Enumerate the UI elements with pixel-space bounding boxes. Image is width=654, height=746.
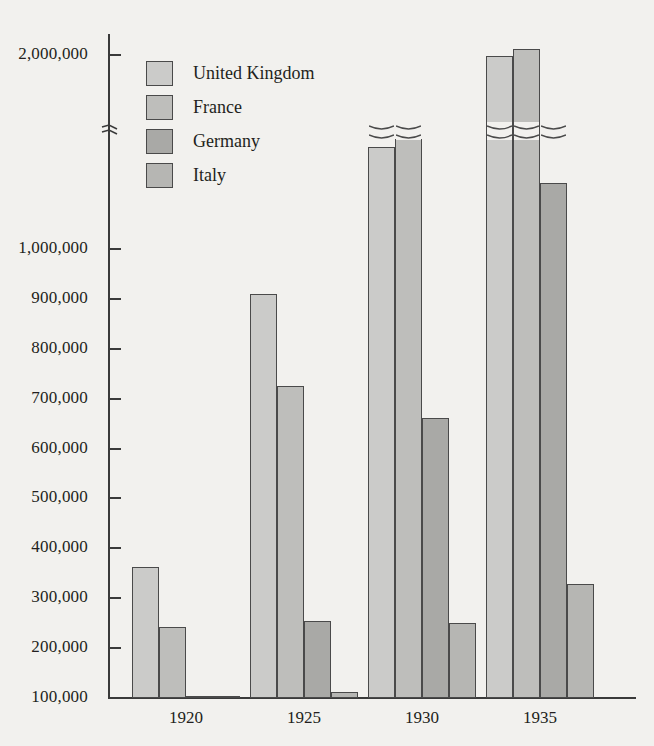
y-axis-tick-label: 800,000 [31, 338, 88, 358]
y-axis-tick-label: 600,000 [31, 438, 88, 458]
x-axis-label-1925: 1925 [244, 708, 364, 728]
y-axis-tick-label: 200,000 [31, 637, 88, 657]
bar-1920-united-kingdom [132, 567, 159, 698]
bar-1925-italy [331, 692, 358, 698]
y-axis-tick-label: 1,000,000 [18, 238, 88, 258]
legend-label: Italy [193, 165, 226, 186]
y-axis-tick-label: 300,000 [31, 587, 88, 607]
legend-item-italy: Italy [146, 158, 315, 192]
y-axis-tick-label: 700,000 [31, 388, 88, 408]
bar-1935-italy [567, 584, 594, 698]
bar-chart: 2,000,0001,000,000900,000800,000700,0006… [0, 0, 654, 746]
legend-item-germany: Germany [146, 124, 315, 158]
legend-item-france: France [146, 90, 315, 124]
bar-break-marker [369, 122, 394, 140]
bar-1935-germany [540, 183, 567, 698]
y-axis-tick-label: 500,000 [31, 487, 88, 507]
bar-1925-germany [304, 621, 331, 698]
bar-break-marker [541, 122, 566, 140]
bar-break-marker [396, 122, 421, 140]
y-axis-tick-label: 2,000,000 [18, 44, 88, 64]
bar-1930-germany [422, 418, 449, 698]
legend-swatch-icon [146, 95, 173, 120]
bar-1930-united-kingdom [368, 147, 395, 698]
x-axis-label-1920: 1920 [126, 708, 246, 728]
x-axis-label-1935: 1935 [480, 708, 600, 728]
y-axis-tick-label: 900,000 [31, 288, 88, 308]
chart-legend: United KingdomFranceGermanyItaly [146, 56, 315, 192]
legend-swatch-icon [146, 129, 173, 154]
legend-label: United Kingdom [193, 63, 315, 84]
bar-1925-united-kingdom [250, 294, 277, 698]
legend-swatch-icon [146, 163, 173, 188]
bar-1930-france [395, 139, 422, 698]
bar-1930-italy [449, 623, 476, 698]
bar-1925-france [277, 386, 304, 698]
bar-1920-italy [213, 696, 240, 698]
y-axis-tick-label: 400,000 [31, 537, 88, 557]
bar-1920-france [159, 627, 186, 698]
legend-label: Germany [193, 131, 260, 152]
x-axis-label-1930: 1930 [362, 708, 482, 728]
bar-1920-germany [186, 696, 213, 698]
y-axis-tick-label: 100,000 [31, 687, 88, 707]
legend-item-united-kingdom: United Kingdom [146, 56, 315, 90]
legend-swatch-icon [146, 61, 173, 86]
bar-1935-united-kingdom [486, 56, 513, 698]
bar-1935-france [513, 49, 540, 698]
legend-label: France [193, 97, 242, 118]
